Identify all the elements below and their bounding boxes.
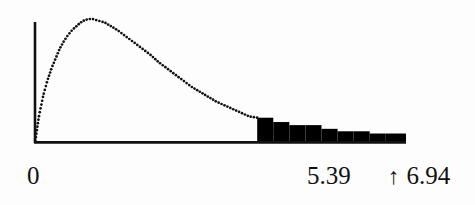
- curve-dot: [80, 21, 83, 24]
- curve-dot: [120, 32, 123, 35]
- curve-dot: [198, 90, 201, 93]
- curve-dot: [249, 115, 252, 118]
- tail-step: [321, 129, 337, 143]
- curve-dot: [141, 48, 144, 51]
- curve-dot: [41, 99, 44, 102]
- curve-dot: [101, 21, 104, 24]
- curve-dot: [164, 66, 167, 69]
- curve-dot: [133, 42, 136, 45]
- curve-dot: [38, 115, 41, 118]
- curve-dot: [98, 20, 101, 23]
- curve-dot: [37, 122, 40, 125]
- curve-dot: [185, 82, 188, 85]
- curve-dot: [66, 35, 69, 38]
- curve-dot: [42, 92, 45, 95]
- x-axis-label-origin: 0: [27, 163, 40, 188]
- tail-step: [289, 125, 305, 142]
- curve-dot: [147, 52, 150, 55]
- curve-dot: [235, 109, 238, 112]
- x-axis-label-cut-point: 5.39: [307, 163, 351, 188]
- curve-dot: [175, 74, 178, 77]
- curve-dot: [172, 72, 175, 75]
- curve-dot: [43, 89, 46, 92]
- curve-dot: [196, 89, 199, 92]
- curve-dot: [95, 19, 98, 22]
- up-arrow-icon: ↑: [388, 164, 400, 189]
- curve-dot: [191, 86, 194, 89]
- curve-dot: [112, 26, 115, 29]
- curve-dot: [156, 60, 159, 63]
- curve-dot: [46, 81, 49, 84]
- curve-dot: [128, 38, 131, 41]
- curve-dot: [159, 62, 162, 65]
- curve-dot: [107, 23, 110, 26]
- curve-dot: [154, 58, 157, 61]
- curve-dot: [61, 43, 64, 46]
- curve-dot: [40, 103, 43, 106]
- curve-dot: [241, 112, 244, 115]
- curve-dot: [244, 113, 247, 116]
- curve-dot: [92, 18, 95, 21]
- curve-dot: [73, 27, 76, 30]
- curve-dot: [52, 61, 55, 64]
- curve-dot: [125, 36, 128, 39]
- curve-dot: [104, 22, 107, 25]
- curve-dot: [117, 30, 120, 33]
- curve-dot: [256, 116, 259, 119]
- curve-dot: [206, 95, 209, 98]
- curve-dot: [109, 25, 112, 28]
- curve-dot: [59, 46, 62, 49]
- curve-dot: [82, 19, 85, 22]
- curve-dot: [70, 29, 73, 32]
- curve-dot: [152, 56, 155, 59]
- curve-dot: [51, 65, 54, 68]
- curve-dot: [246, 114, 249, 117]
- curve-dot: [229, 107, 232, 110]
- curve-dot: [55, 55, 58, 58]
- curve-dot: [68, 32, 71, 35]
- curve-dot: [36, 125, 39, 128]
- curve-dot: [75, 25, 78, 28]
- curve-dot: [123, 34, 126, 37]
- curve-dot: [131, 40, 134, 43]
- curve-dot: [38, 111, 41, 114]
- curve-dot: [204, 94, 207, 97]
- curve-dot: [209, 97, 212, 100]
- tail-step: [257, 118, 273, 143]
- curve-dot: [201, 92, 204, 95]
- curve-dot: [149, 54, 152, 57]
- curve-dot: [136, 44, 139, 47]
- curve-dot: [39, 107, 42, 110]
- critical-value-marker-group: ↑ 6.94: [388, 163, 450, 189]
- curve-dot: [144, 50, 147, 53]
- curve-dot: [217, 101, 220, 104]
- curve-dot: [169, 70, 172, 73]
- curve-dot: [238, 111, 241, 114]
- curve-dot: [212, 98, 215, 101]
- curve-dot: [37, 118, 40, 121]
- x-axis-label-critical-value: 6.94: [407, 163, 451, 188]
- curve-dot: [167, 68, 170, 71]
- curve-dot: [188, 84, 191, 87]
- curve-dot: [48, 74, 51, 77]
- tail-step: [273, 122, 289, 142]
- tail-step: [354, 131, 370, 142]
- curve-dot: [58, 49, 61, 52]
- curve-dot: [220, 103, 223, 106]
- curve-dot: [85, 18, 88, 21]
- curve-dot: [89, 18, 92, 21]
- curve-dot: [62, 40, 65, 43]
- curve-dot: [64, 37, 67, 40]
- tail-step: [370, 134, 386, 143]
- curve-dot: [214, 100, 217, 103]
- tail-step: [305, 125, 321, 142]
- density-curve-dots: [34, 18, 259, 142]
- curve-dot: [54, 58, 57, 61]
- curve-dot: [180, 78, 183, 81]
- curve-dot: [45, 85, 48, 88]
- curve-dot: [49, 71, 52, 74]
- curve-dot: [226, 105, 229, 108]
- tail-step: [338, 131, 354, 142]
- curve-dot: [139, 46, 142, 49]
- curve-dot: [253, 116, 256, 119]
